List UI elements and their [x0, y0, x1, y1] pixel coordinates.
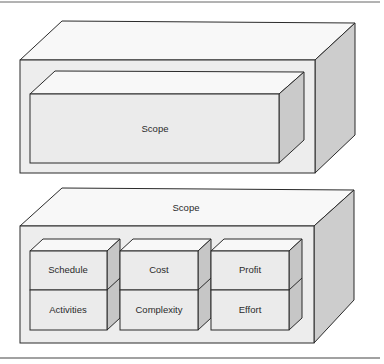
bottom-scope-label: Scope: [173, 202, 200, 213]
top-inner-scope-box: Scope: [30, 71, 304, 163]
cell-top-face: [120, 239, 211, 251]
inner-scope-label: Scope: [142, 123, 169, 134]
cell-label-activities: Activities: [49, 304, 87, 315]
cell-label-profit: Profit: [239, 264, 262, 275]
cell-label-schedule: Schedule: [48, 264, 88, 275]
cell-label-cost: Cost: [149, 264, 169, 275]
cell-label-complexity: Complexity: [136, 304, 183, 315]
top-outer-top-face: [20, 21, 355, 60]
cell-column-schedule-activities: Schedule Activities: [30, 239, 120, 330]
cell-label-effort: Effort: [239, 304, 262, 315]
cell-top-face: [211, 239, 302, 251]
cell-column-profit-effort: Profit Effort: [211, 239, 302, 330]
diagram-canvas: Scope Scope Schedule Activities Cost Com…: [0, 0, 384, 364]
cell-top-face: [30, 239, 120, 251]
cell-column-cost-complexity: Cost Complexity: [120, 239, 211, 330]
inner-top-face: [30, 71, 304, 94]
